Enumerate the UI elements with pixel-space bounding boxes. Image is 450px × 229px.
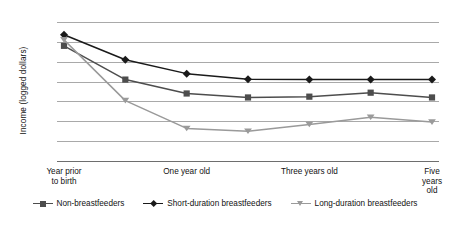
chart-legend: Non-breastfeedersShort-duration breastfe… — [0, 199, 450, 208]
data-point-marker — [121, 56, 129, 64]
series-layer — [57, 22, 439, 161]
x-tick-label: Five years old — [422, 167, 442, 196]
data-point-marker — [428, 76, 436, 84]
legend-marker — [150, 200, 158, 208]
legend-label: Non-breastfeeders — [57, 199, 125, 208]
data-point-marker — [61, 43, 67, 49]
series-diamond — [60, 31, 436, 84]
data-point-marker — [306, 94, 312, 100]
series-triangle-down — [60, 37, 436, 134]
data-point-marker — [244, 75, 252, 83]
legend-marker — [297, 201, 303, 206]
data-point-marker — [183, 70, 191, 78]
data-point-marker — [245, 94, 251, 100]
data-point-marker — [368, 90, 374, 96]
plot-area — [57, 22, 439, 161]
x-axis-line — [57, 161, 439, 162]
x-tick-label: One year old — [163, 167, 210, 177]
data-point-marker — [184, 90, 190, 96]
legend-item: Non-breastfeeders — [33, 199, 125, 208]
x-tick-label: Year prior to birth — [46, 167, 81, 186]
legend-swatch-square-icon — [33, 199, 53, 208]
data-point-marker — [305, 76, 313, 84]
legend-label: Long-duration breastfeeders — [315, 199, 418, 208]
legend-swatch-triangle-down-icon — [291, 199, 311, 208]
data-point-marker — [122, 76, 128, 82]
data-point-marker — [367, 76, 375, 84]
legend-label: Short-duration breastfeeders — [167, 199, 271, 208]
series-line — [64, 40, 432, 131]
legend-item: Long-duration breastfeeders — [291, 199, 418, 208]
data-point-marker — [429, 94, 435, 100]
chart-figure: Income (logged dollars) 10.09.59.08.58.0… — [0, 0, 450, 229]
legend-item: Short-duration breastfeeders — [143, 199, 271, 208]
y-axis-title: Income (logged dollars) — [19, 16, 28, 166]
series-line — [64, 46, 432, 98]
x-tick-label: Three years old — [281, 167, 338, 177]
legend-marker — [40, 201, 46, 207]
legend-swatch-diamond-icon — [143, 199, 163, 208]
series-line — [64, 35, 432, 80]
